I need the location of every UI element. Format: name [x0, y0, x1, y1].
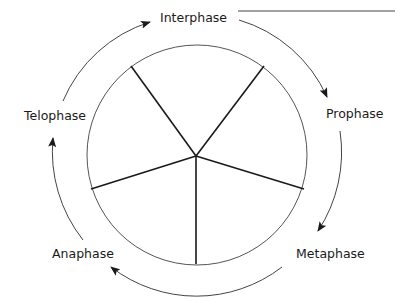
spoke-top-left [131, 66, 196, 156]
arrow-interphase-to-prophase [239, 20, 327, 97]
label-telophase: Telophase [24, 110, 86, 123]
label-anaphase: Anaphase [52, 248, 114, 261]
spoke-left [91, 156, 196, 189]
arrow-prophase-to-metaphase [318, 131, 342, 231]
label-metaphase: Metaphase [296, 248, 365, 261]
arrow-anaphase-to-telophase [52, 138, 83, 240]
label-interphase: Interphase [160, 12, 227, 25]
arrow-telophase-to-interphase [63, 22, 150, 101]
spoke-top-right [196, 66, 264, 156]
spoke-right [196, 156, 304, 189]
label-prophase: Prophase [326, 108, 384, 121]
circle-spokes [91, 66, 304, 264]
arrow-metaphase-to-anaphase [111, 267, 282, 296]
